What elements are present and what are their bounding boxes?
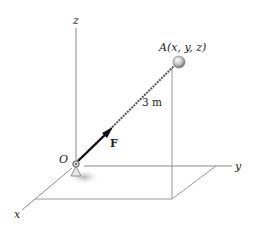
origin-joint-center bbox=[75, 163, 77, 165]
point-a-ball bbox=[173, 56, 185, 68]
length-label: 3 m bbox=[142, 96, 162, 108]
z-axis-label: z bbox=[72, 14, 79, 27]
diagram-canvas: z y x F O A(x, y, z) 3 m bbox=[0, 0, 255, 232]
support-shadow bbox=[68, 169, 100, 185]
x-axis bbox=[22, 168, 72, 210]
force-label: F bbox=[110, 137, 118, 150]
origin-label: O bbox=[59, 153, 68, 166]
x-axis-label: x bbox=[14, 208, 21, 221]
force-arrow-shaft bbox=[78, 134, 106, 161]
projection-line-diagonal bbox=[172, 166, 216, 199]
y-axis-label: y bbox=[234, 160, 242, 173]
point-a-label: A(x, y, z) bbox=[158, 41, 206, 54]
